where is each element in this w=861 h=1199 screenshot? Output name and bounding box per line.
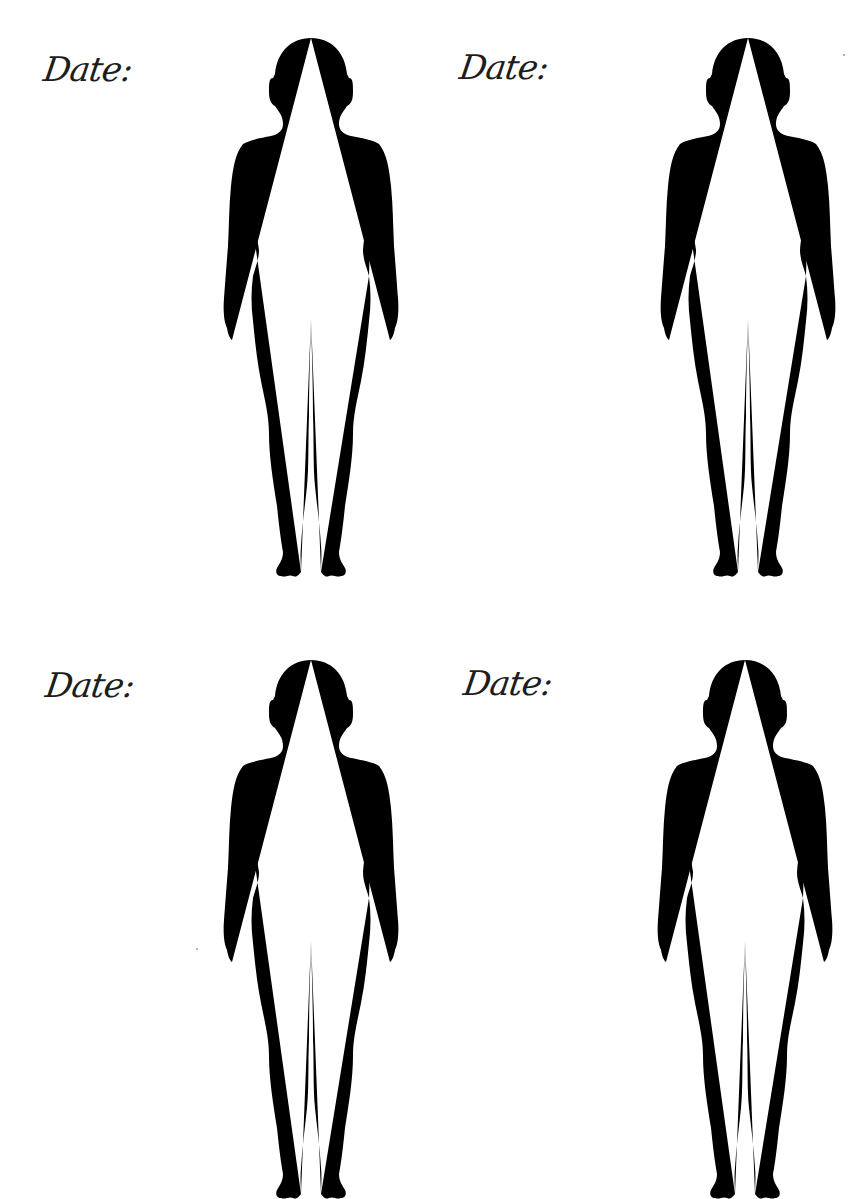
paper-speck bbox=[196, 948, 198, 950]
paper-speck bbox=[843, 54, 845, 56]
body-outline-figure bbox=[658, 36, 838, 581]
panel-top-left: Date: bbox=[0, 0, 430, 600]
date-label: Date: bbox=[462, 666, 555, 700]
panel-bottom-right: Date: bbox=[430, 600, 861, 1199]
body-outline-figure bbox=[655, 658, 835, 1199]
date-label: Date: bbox=[42, 52, 135, 86]
body-outline-figure bbox=[221, 36, 401, 581]
panel-bottom-left: Date: bbox=[0, 600, 430, 1199]
date-label: Date: bbox=[458, 50, 551, 84]
panel-top-right: Date: bbox=[430, 0, 861, 600]
date-label: Date: bbox=[44, 668, 137, 702]
body-outline-figure bbox=[221, 658, 401, 1199]
